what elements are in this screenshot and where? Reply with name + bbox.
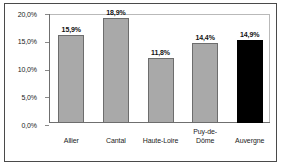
bar-puy-de-d-me bbox=[192, 43, 218, 123]
y-axis-tick bbox=[45, 125, 49, 126]
x-axis-label-cantal: Cantal bbox=[92, 136, 140, 145]
y-axis-tick-label: 10,0% bbox=[18, 66, 37, 73]
x-axis-label-allier: Allier bbox=[47, 136, 95, 145]
bar-value-label: 15,9% bbox=[51, 26, 91, 33]
x-axis-label-line: Dôme bbox=[181, 136, 229, 145]
bar-haute-loire bbox=[148, 58, 174, 123]
y-axis-line bbox=[49, 14, 50, 123]
x-axis-label-line: Cantal bbox=[92, 136, 140, 145]
y-axis-tick-label: 15,0% bbox=[18, 38, 37, 45]
y-axis-tick-label: 0,0% bbox=[21, 122, 37, 129]
y-axis-tick bbox=[45, 97, 49, 98]
x-axis-label-line: Puy-de- bbox=[181, 127, 229, 136]
bar-auvergne bbox=[237, 40, 263, 123]
bar-value-label: 14,9% bbox=[230, 31, 270, 38]
bar-cantal bbox=[103, 18, 129, 123]
bar-value-label: 18,9% bbox=[96, 9, 136, 16]
x-axis-label-line: Allier bbox=[47, 136, 95, 145]
x-axis-label-puy-de-d-me: Puy-de-Dôme bbox=[181, 127, 229, 145]
bar-value-label: 11,8% bbox=[141, 49, 181, 56]
y-axis-tick bbox=[45, 14, 49, 15]
y-axis-tick-label: 5,0% bbox=[21, 94, 37, 101]
y-axis-tick bbox=[45, 70, 49, 71]
chart-figure-frame: 0,0%5,0%10,0%15,0%20,0% 15,9%18,9%11,8%1… bbox=[4, 3, 277, 162]
bar-allier bbox=[58, 35, 84, 123]
y-axis-tick bbox=[45, 42, 49, 43]
x-axis-label-auvergne: Auvergne bbox=[226, 136, 274, 145]
bar-chart: 0,0%5,0%10,0%15,0%20,0% 15,9%18,9%11,8%1… bbox=[5, 4, 276, 161]
x-axis-label-line: Auvergne bbox=[226, 136, 274, 145]
bar-value-label: 14,4% bbox=[185, 34, 225, 41]
y-axis-tick-label: 20,0% bbox=[18, 11, 37, 18]
x-axis-label-haute-loire: Haute-Loire bbox=[137, 136, 185, 145]
x-axis-label-line: Haute-Loire bbox=[137, 136, 185, 145]
